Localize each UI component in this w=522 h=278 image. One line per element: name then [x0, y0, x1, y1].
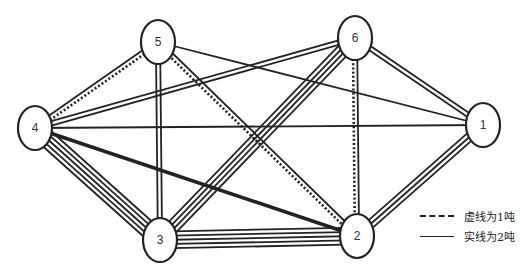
dashed-edge-line — [36, 44, 159, 130]
solid-edge-line — [160, 228, 357, 232]
solid-edge-line — [160, 244, 357, 248]
solid-edge-line — [38, 125, 163, 237]
solid-edge-line — [357, 38, 359, 236]
solid-edge-line — [34, 36, 354, 126]
solid-line-icon — [420, 236, 454, 237]
edge-6-1 — [354, 36, 484, 126]
legend-row-dashed: 虚线为1吨 — [420, 206, 515, 226]
node-3: 3 — [143, 218, 177, 262]
node-1: 1 — [466, 103, 500, 147]
solid-edge-line — [165, 42, 360, 244]
node-label: 4 — [32, 121, 39, 135]
node-label: 5 — [155, 35, 162, 49]
legend-dashed-label: 虚线为1吨 — [464, 208, 515, 224]
edge-3-2 — [160, 228, 357, 249]
node-label: 6 — [352, 31, 359, 45]
legend-row-solid: 实线为2吨 — [420, 226, 515, 246]
solid-edge-line — [41, 122, 166, 234]
edge-5-3 — [156, 42, 162, 240]
solid-edge-line — [354, 40, 482, 127]
node-label: 2 — [354, 229, 361, 243]
edges-layer — [29, 34, 485, 249]
solid-edge-line — [160, 232, 357, 236]
legend: 虚线为1吨 实线为2吨 — [420, 206, 515, 246]
solid-edge-line — [160, 236, 357, 240]
dashed-edge-line — [353, 38, 355, 236]
node-6: 6 — [338, 16, 372, 60]
node-2: 2 — [340, 214, 374, 258]
solid-edge-line — [356, 36, 484, 123]
node-label: 3 — [157, 233, 164, 247]
node-label: 1 — [480, 118, 487, 132]
solid-edge-line — [35, 128, 160, 240]
solid-edge-line — [160, 42, 162, 240]
solid-edge-line — [160, 240, 357, 244]
node-5: 5 — [141, 20, 175, 64]
solid-edge-line — [29, 134, 154, 246]
dashed-line-icon — [420, 215, 454, 217]
legend-solid-label: 实线为2吨 — [464, 228, 515, 244]
node-4: 4 — [18, 106, 52, 150]
edge-6-2 — [353, 38, 359, 236]
solid-edge-line — [156, 42, 158, 240]
edge-4-5 — [34, 40, 159, 129]
